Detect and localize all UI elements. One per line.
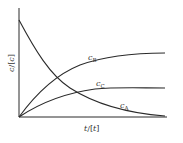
chart: cB cC cA t/[t] c/[c] <box>0 0 183 143</box>
curve-cA <box>19 20 165 116</box>
label-cB: cB <box>88 53 97 63</box>
label-cA: cA <box>120 101 129 111</box>
label-cC: cC <box>96 79 105 89</box>
y-axis-label: c/[c] <box>7 54 16 72</box>
x-axis-label: t/[t] <box>84 124 99 133</box>
